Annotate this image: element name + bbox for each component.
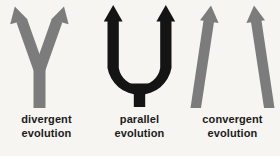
parallel-arrows-icon <box>93 0 186 112</box>
panel-divergent: divergent evolution <box>0 0 93 156</box>
caption-line-2: evolution <box>186 127 279 141</box>
caption-line-2: evolution <box>0 127 93 141</box>
caption-convergent: convergent evolution <box>186 113 279 140</box>
caption-line-1: divergent <box>0 113 93 127</box>
converging-arrows-icon <box>186 0 279 112</box>
caption-line-2: evolution <box>93 127 186 141</box>
diverging-arrows-icon <box>0 0 93 112</box>
caption-divergent: divergent evolution <box>0 113 93 140</box>
caption-parallel: parallel evolution <box>93 113 186 140</box>
evolution-modes-figure: divergent evolution <box>0 0 280 156</box>
caption-line-1: parallel <box>93 113 186 127</box>
caption-line-1: convergent <box>186 113 279 127</box>
panel-parallel: parallel evolution <box>93 0 186 156</box>
panel-convergent: convergent evolution <box>186 0 279 156</box>
